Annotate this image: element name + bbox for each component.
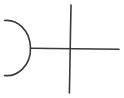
line-drawing	[0, 0, 124, 98]
sketch-canvas	[0, 0, 124, 98]
horizontal-line-shape	[31, 48, 120, 49]
